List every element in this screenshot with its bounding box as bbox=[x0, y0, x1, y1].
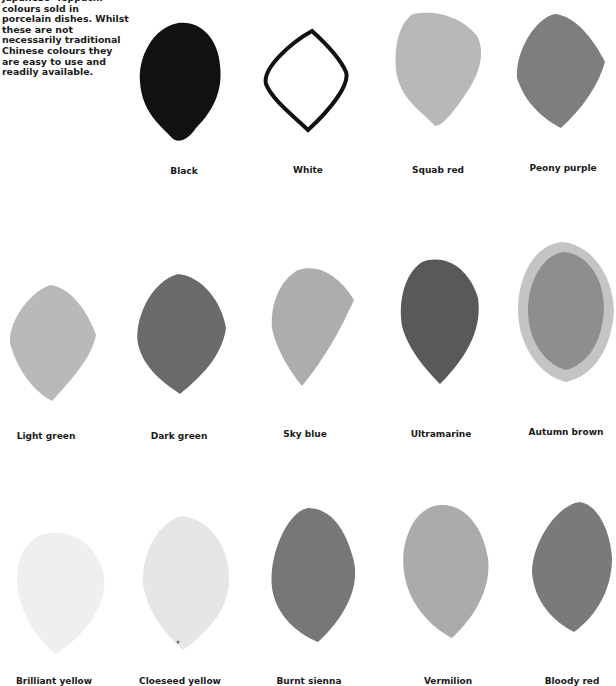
swatch-label: Autumn brown bbox=[529, 427, 604, 437]
swatch-black bbox=[138, 20, 228, 145]
swatch-label: Dark green bbox=[151, 431, 208, 441]
swatch-label: Black bbox=[170, 166, 197, 176]
swatch-vermilion bbox=[400, 500, 495, 640]
swatch-dark-green bbox=[134, 272, 229, 397]
swatch-ultramarine bbox=[398, 254, 488, 386]
swatch-label: Bloody red bbox=[545, 676, 600, 686]
swatch-brilliant-yellow bbox=[14, 526, 109, 658]
intro-text: Japanese 'Teppachi' colours sold in porc… bbox=[2, 0, 132, 78]
swatch-label: Light green bbox=[17, 431, 76, 441]
swatch-label: Vermilion bbox=[424, 676, 472, 686]
swatch-label: Cloeseed yellow bbox=[139, 676, 221, 686]
swatch-white bbox=[262, 28, 352, 138]
swatch-label: Squab red bbox=[412, 165, 464, 175]
swatch-squab-red bbox=[393, 10, 488, 130]
swatch-peony-purple bbox=[515, 12, 610, 132]
swatch-label: Ultramarine bbox=[411, 429, 472, 439]
swatch-light-green bbox=[6, 283, 101, 403]
swatch-label: Burnt sienna bbox=[277, 676, 342, 686]
swatch-autumn-brown bbox=[516, 240, 616, 385]
intro-line: readily available. bbox=[2, 67, 132, 78]
intro-line: Chinese colours they bbox=[2, 46, 132, 57]
swatch-bloody-red bbox=[530, 498, 615, 638]
swatch-label: Brilliant yellow bbox=[16, 676, 92, 686]
swatch-sky-blue bbox=[270, 264, 365, 389]
swatch-burnt-sienna bbox=[268, 504, 363, 644]
swatch-label: Peony purple bbox=[529, 163, 596, 173]
swatch-cloeseed-yellow bbox=[141, 514, 236, 654]
swatch-label: Sky blue bbox=[283, 429, 327, 439]
swatch-label: White bbox=[293, 165, 323, 175]
